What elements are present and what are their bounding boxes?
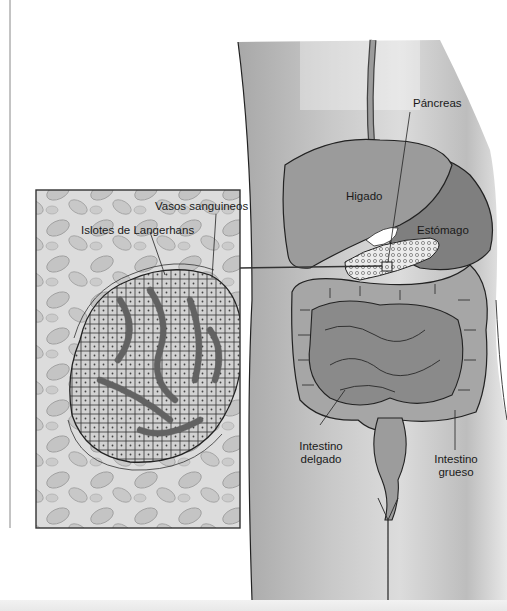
label-liver: Higado [346, 190, 382, 203]
label-small-intestine-line1: Intestino [290, 440, 352, 453]
islet-inset [36, 190, 242, 528]
label-islets: Islotes de Langerhans [81, 224, 194, 237]
anatomy-illustration [0, 0, 507, 611]
label-small-intestine: Intestino delgado [290, 440, 352, 466]
small-intestine [309, 301, 463, 405]
label-vessels: Vasos sanguineos [155, 200, 248, 213]
label-small-intestine-line2: delgado [290, 453, 352, 466]
label-stomach: Estómago [417, 224, 469, 237]
label-large-intestine-line1: Intestino [425, 453, 487, 466]
label-large-intestine-line2: grueso [425, 466, 487, 479]
label-large-intestine: Intestino grueso [425, 453, 487, 479]
label-pancreas: Páncreas [413, 97, 462, 110]
page-bottom-edge [0, 600, 507, 611]
